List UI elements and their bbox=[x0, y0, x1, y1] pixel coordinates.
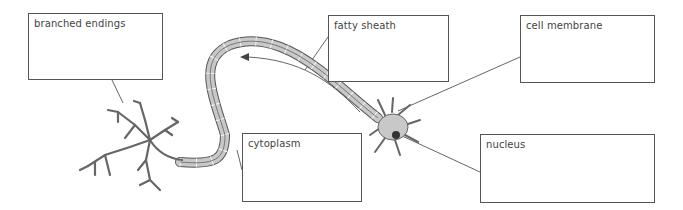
label-box-nucleus[interactable]: nucleus bbox=[480, 134, 655, 203]
label-text: nucleus bbox=[486, 139, 525, 150]
label-box-cytoplasm[interactable]: cytoplasm bbox=[242, 133, 362, 202]
cell-body bbox=[370, 98, 420, 155]
label-text: fatty sheath bbox=[334, 20, 396, 31]
label-box-branched-endings[interactable]: branched endings bbox=[28, 13, 163, 80]
label-box-fatty-sheath[interactable]: fatty sheath bbox=[328, 15, 449, 82]
nucleus-shape bbox=[392, 131, 400, 139]
label-text: branched endings bbox=[34, 18, 126, 29]
label-text: cell membrane bbox=[526, 20, 602, 31]
branched-endings-structure bbox=[80, 101, 182, 190]
label-text: cytoplasm bbox=[248, 138, 301, 149]
label-box-cell-membrane[interactable]: cell membrane bbox=[520, 15, 655, 83]
